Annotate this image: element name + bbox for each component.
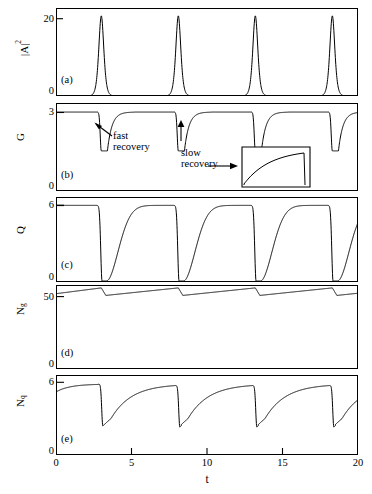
panel-d-ylabel: Ng [14, 294, 27, 324]
multi-panel-figure: (a) |A|2 20 0 [0, 0, 372, 494]
fast-recovery-line2: recovery [113, 141, 150, 152]
slow-recovery-inset [242, 147, 310, 187]
slow-recovery-annotation: slowrecovery [181, 147, 218, 170]
fast-recovery-annotation: fastrecovery [113, 130, 150, 153]
panel-c-plot [56, 197, 358, 282]
panel-a-ytick-20: 20 [28, 13, 54, 24]
panel-d: (d) [56, 285, 358, 369]
panel-a-ylabel: |A|2 [14, 18, 30, 78]
panel-d-ylabel-sub: g [18, 303, 27, 307]
panel-b-ytick-0: 0 [28, 180, 54, 191]
x-tick-label-10: 10 [192, 457, 222, 468]
slow-recovery-arrow-up [178, 120, 185, 141]
panel-a: (a) [56, 8, 358, 96]
panel-c-ylabel: Q [14, 218, 26, 242]
panel-b-tag: (b) [61, 169, 73, 180]
panel-e: (e) [56, 375, 358, 455]
panel-e-ytick-6: 6 [28, 376, 54, 387]
slow-recovery-line2: recovery [181, 158, 218, 169]
slow-recovery-line1: slow [181, 147, 201, 158]
fast-recovery-arrow [95, 123, 113, 137]
panel-b-ylabel: G [14, 125, 26, 149]
panel-a-ylabel-base: |A| [18, 44, 30, 56]
panel-c-ytick-6: 6 [28, 199, 54, 210]
panel-a-tag: (a) [61, 74, 73, 85]
panel-e-ylabel-base: N [14, 399, 26, 407]
panel-e-ylabel-sub: q [18, 395, 27, 399]
panel-e-ytick-0: 0 [28, 445, 54, 456]
x-tick-label-20: 20 [343, 457, 372, 468]
panel-e-ylabel: Nq [14, 386, 27, 416]
panel-d-tag: (d) [61, 347, 73, 358]
panel-c: (c) [56, 197, 358, 282]
x-axis-ticks [132, 448, 283, 455]
panel-e-plot [56, 375, 358, 455]
panel-b-ytick-3: 3 [28, 106, 54, 117]
panel-c-ytick-0: 0 [28, 271, 54, 282]
panel-d-ytick-50: 50 [28, 291, 54, 302]
panel-a-ytick-0: 0 [28, 85, 54, 96]
panel-e-tag: (e) [61, 433, 73, 444]
x-tick-label-5: 5 [117, 457, 147, 468]
x-tick-label-15: 15 [268, 457, 298, 468]
panel-d-ylabel-base: N [14, 307, 26, 315]
x-tick-label-0: 0 [41, 457, 71, 468]
panel-c-tag: (c) [61, 259, 73, 270]
panel-a-ylabel-exp: 2 [14, 40, 23, 44]
panel-d-ytick-0: 0 [28, 358, 54, 369]
fast-recovery-line1: fast [113, 130, 128, 141]
x-axis-title: t [192, 473, 222, 485]
panel-a-plot [56, 8, 358, 96]
panel-d-plot [56, 285, 358, 369]
